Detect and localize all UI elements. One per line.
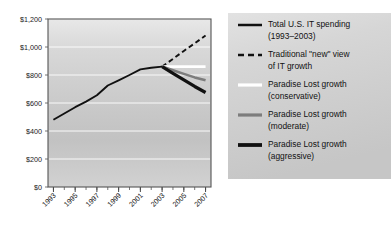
legend-label-line1-1: Traditional "new" view bbox=[268, 49, 350, 59]
legend-label-line2-1: of IT growth bbox=[268, 61, 312, 71]
legend-label-line2-4: (aggressive) bbox=[268, 151, 314, 161]
legend-label-line1-4: Paradise Lost growth bbox=[268, 139, 347, 149]
chart-svg: $0$200$400$600$800$1,000$1,200 199319951… bbox=[0, 0, 391, 232]
y-tick-label: $1,200 bbox=[20, 15, 42, 24]
y-tick-label: $0 bbox=[34, 183, 42, 192]
legend-label-line1-0: Total U.S. IT spending bbox=[268, 19, 351, 29]
y-tick-label: $600 bbox=[26, 99, 42, 108]
legend-label-line2-0: (1993–2003) bbox=[268, 31, 316, 41]
legend-label-line2-3: (moderate) bbox=[268, 121, 309, 131]
legend-label-line2-2: (conservative) bbox=[268, 91, 321, 101]
y-tick-label: $1,000 bbox=[20, 43, 42, 52]
y-tick-label: $800 bbox=[26, 71, 42, 80]
legend-label-line1-2: Paradise Lost growth bbox=[268, 79, 347, 89]
y-tick-label: $400 bbox=[26, 127, 42, 136]
chart-figure: $0$200$400$600$800$1,000$1,200 199319951… bbox=[0, 0, 391, 232]
y-tick-label: $200 bbox=[26, 155, 42, 164]
legend-label-line1-3: Paradise Lost growth bbox=[268, 109, 347, 119]
